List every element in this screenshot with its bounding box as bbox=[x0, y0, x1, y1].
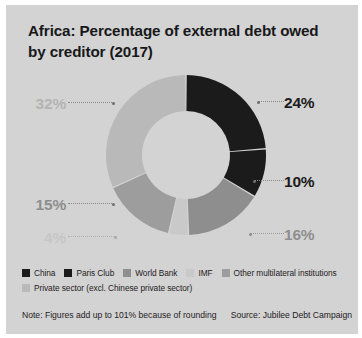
donut-chart: China: 24%Paris Club: 10%World Bank: 16%… bbox=[103, 72, 269, 238]
chart-footer: Note: Figures add up to 101% because of … bbox=[22, 310, 352, 320]
legend-item-label: Private sector (excl. Chinese private se… bbox=[34, 283, 192, 293]
legend-item-label: China bbox=[34, 268, 55, 278]
chart-card: Africa: Percentage of external debt owed… bbox=[6, 5, 358, 334]
data-label-imf: 4% bbox=[10, 229, 66, 247]
donut-svg: China: 24%Paris Club: 10%World Bank: 16%… bbox=[103, 72, 269, 238]
legend-item[interactable]: Other multilateral institutions bbox=[222, 268, 337, 278]
leader-line-other-multilateral bbox=[68, 203, 114, 205]
legend-row: ChinaParis ClubWorld BankIMFOther multil… bbox=[22, 268, 352, 278]
legend-item-label: IMF bbox=[198, 268, 212, 278]
leader-line-private-sector bbox=[68, 102, 114, 104]
data-label-private-sector: 32% bbox=[10, 95, 66, 113]
chart-source: Source: Jubilee Debt Campaign bbox=[231, 310, 352, 320]
leader-dot bbox=[249, 233, 252, 236]
legend-item-label: Paris Club bbox=[76, 268, 114, 278]
leader-line-paris-club bbox=[254, 180, 284, 182]
chart-note: Note: Figures add up to 101% because of … bbox=[22, 310, 216, 320]
legend-item[interactable]: World Bank bbox=[123, 268, 177, 278]
donut-slice: China: 24% bbox=[186, 75, 265, 151]
data-label-world-bank: 16% bbox=[284, 226, 344, 244]
legend-row: Private sector (excl. Chinese private se… bbox=[22, 283, 352, 293]
legend-swatch-icon bbox=[22, 284, 30, 292]
leader-dot bbox=[253, 180, 256, 183]
data-label-china: 24% bbox=[284, 94, 344, 112]
chart-title: Africa: Percentage of external debt owed… bbox=[28, 21, 334, 63]
data-label-other-multilateral: 15% bbox=[10, 196, 66, 214]
chart-legend: ChinaParis ClubWorld BankIMFOther multil… bbox=[22, 268, 352, 298]
chart-plot-area: China: 24%Paris Club: 10%World Bank: 16%… bbox=[6, 65, 358, 260]
legend-item-label: World Bank bbox=[135, 268, 177, 278]
donut-slice: Private sector (excl. Chinese private se… bbox=[106, 75, 186, 187]
legend-swatch-icon bbox=[186, 269, 194, 277]
leader-line-imf bbox=[68, 236, 116, 238]
legend-swatch-icon bbox=[123, 269, 131, 277]
legend-item[interactable]: IMF bbox=[186, 268, 212, 278]
leader-dot bbox=[112, 203, 115, 206]
leader-line-world-bank bbox=[250, 233, 284, 235]
legend-swatch-icon bbox=[222, 269, 230, 277]
legend-item[interactable]: China bbox=[22, 268, 55, 278]
leader-dot bbox=[257, 101, 260, 104]
leader-dot bbox=[112, 102, 115, 105]
leader-line-china bbox=[258, 101, 284, 103]
leader-dot bbox=[114, 236, 117, 239]
legend-swatch-icon bbox=[64, 269, 72, 277]
legend-item[interactable]: Private sector (excl. Chinese private se… bbox=[22, 283, 192, 293]
legend-swatch-icon bbox=[22, 269, 30, 277]
legend-item-label: Other multilateral institutions bbox=[234, 268, 337, 278]
legend-item[interactable]: Paris Club bbox=[64, 268, 114, 278]
data-label-paris-club: 10% bbox=[284, 173, 344, 191]
